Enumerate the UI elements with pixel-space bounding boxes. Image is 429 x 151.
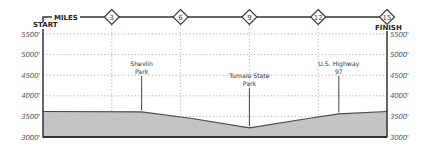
miles-axis: MILES 3691215 xyxy=(43,10,395,25)
landmark-label: Shevlin xyxy=(130,60,153,67)
y-tick-label: 4500' xyxy=(21,72,40,80)
mile-marker-label: 9 xyxy=(247,14,251,22)
mile-marker-label: 3 xyxy=(110,14,114,22)
landmark-label: 97 xyxy=(335,68,343,75)
landmark-label: Tumalo State xyxy=(228,72,270,79)
mile-marker-label: 6 xyxy=(178,14,183,22)
y-tick-label: 4000' xyxy=(390,92,409,100)
landmark-label: Park xyxy=(243,80,257,87)
elevation-profile-chart: ShevlinParkTumalo StateParkU.S. Highway9… xyxy=(0,0,429,151)
y-tick-label: 4500' xyxy=(390,72,409,80)
mile-marker-label: 15 xyxy=(383,14,392,22)
elevation-area xyxy=(43,112,387,138)
y-tick-label: 3500' xyxy=(21,113,40,121)
y-tick-label: 3500' xyxy=(390,113,409,121)
y-axis-labels-left: 3000'3500'4000'4500'5000'5500' xyxy=(21,31,40,142)
y-tick-label: 3000' xyxy=(21,134,40,142)
start-label: START xyxy=(33,21,58,29)
y-axis-labels-right: 3000'3500'4000'4500'5000'5500' xyxy=(390,31,409,142)
y-tick-label: 5000' xyxy=(21,51,40,59)
finish-label: FINISH xyxy=(375,24,402,32)
y-tick-label: 5500' xyxy=(21,31,40,39)
landmark-label: Park xyxy=(135,68,149,75)
y-tick-label: 3000' xyxy=(390,134,409,142)
miles-label: MILES xyxy=(54,14,78,22)
y-tick-label: 5000' xyxy=(390,51,409,59)
y-tick-label: 4000' xyxy=(21,92,40,100)
mile-marker-label: 12 xyxy=(314,14,323,22)
